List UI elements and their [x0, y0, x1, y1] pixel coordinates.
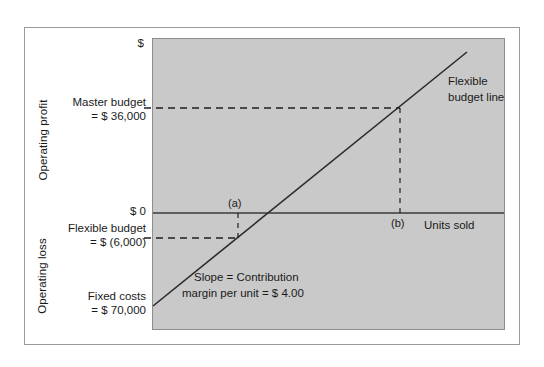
flexible-budget-line — [153, 52, 467, 306]
chart-line-overlay — [0, 0, 544, 367]
flexible-budget-chart-figure: Operating profit Operating loss $ Master… — [0, 0, 544, 367]
